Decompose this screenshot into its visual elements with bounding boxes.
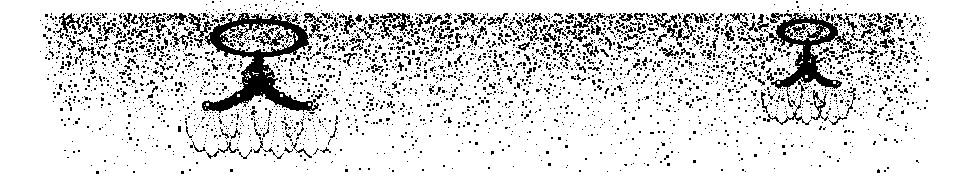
chandelier-engraving-canvas bbox=[0, 0, 967, 190]
halftone-figure: Dithered black-and-white scan of two orn… bbox=[0, 0, 967, 190]
